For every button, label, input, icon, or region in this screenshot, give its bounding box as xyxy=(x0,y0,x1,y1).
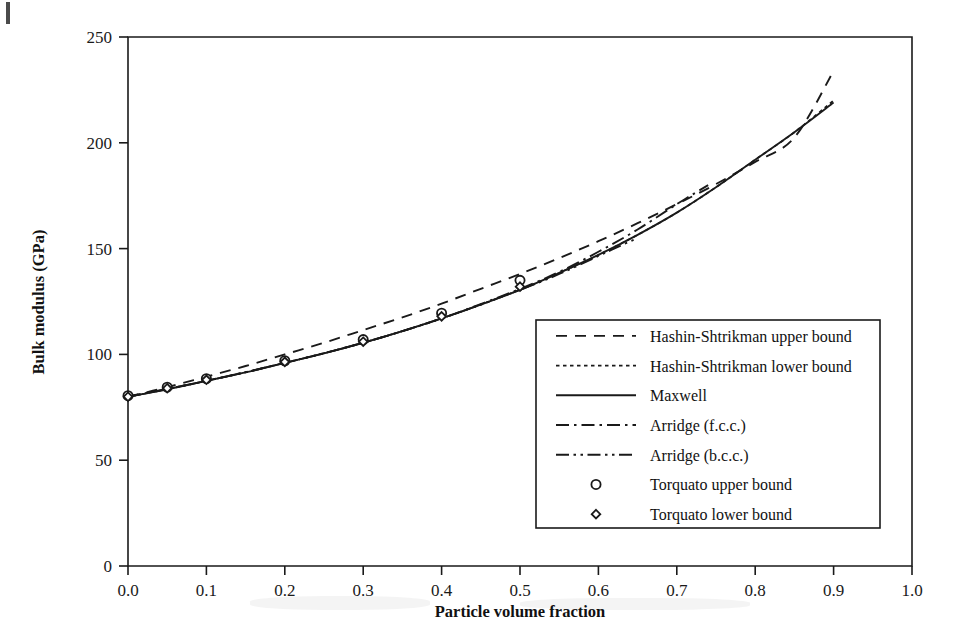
x-tick-label: 0.7 xyxy=(666,581,688,600)
y-tick-label: 250 xyxy=(87,28,113,47)
x-tick-label: 0.3 xyxy=(353,581,374,600)
legend-label: Hashin-Shtrikman lower bound xyxy=(650,358,852,375)
x-tick-label: 0.9 xyxy=(823,581,844,600)
x-tick-label: 0.1 xyxy=(196,581,217,600)
chart-figure: 050100150200250 0.00.10.20.30.40.50.60.7… xyxy=(0,0,953,640)
legend-label: Hashin-Shtrikman upper bound xyxy=(650,328,852,346)
legend-swatch-torquato-upper xyxy=(591,480,600,489)
x-tick-label: 0.2 xyxy=(274,581,295,600)
y-tick-label: 50 xyxy=(95,451,112,470)
legend-label: Maxwell xyxy=(650,387,707,404)
chart-legend: Hashin-Shtrikman upper boundHashin-Shtri… xyxy=(536,320,880,528)
x-tick-label: 0.6 xyxy=(588,581,609,600)
legend-label: Arridge (b.c.c.) xyxy=(650,447,749,465)
y-tick-label: 150 xyxy=(87,240,113,259)
x-axis-tick-labels: 0.00.10.20.30.40.50.60.70.80.91.0 xyxy=(117,581,922,600)
x-tick-label: 0.8 xyxy=(745,581,766,600)
x-axis-ticks xyxy=(128,566,912,575)
y-axis-title: Bulk modulus (GPa) xyxy=(29,230,48,375)
x-tick-label: 0.0 xyxy=(117,581,138,600)
y-axis-ticks xyxy=(119,37,128,566)
y-tick-label: 200 xyxy=(87,134,113,153)
x-tick-label: 1.0 xyxy=(901,581,922,600)
y-tick-label: 100 xyxy=(87,345,113,364)
legend-label: Arridge (f.c.c.) xyxy=(650,417,746,435)
legend-label: Torquato lower bound xyxy=(650,506,792,524)
x-tick-label: 0.5 xyxy=(509,581,530,600)
legend-label: Torquato upper bound xyxy=(650,476,792,494)
y-tick-label: 0 xyxy=(104,557,113,576)
x-axis-title: Particle volume fraction xyxy=(435,602,605,621)
y-axis-tick-labels: 050100150200250 xyxy=(87,28,113,576)
x-tick-label: 0.4 xyxy=(431,581,453,600)
